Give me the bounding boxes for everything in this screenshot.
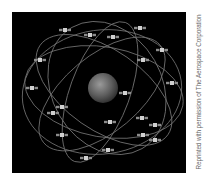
satellite-icon bbox=[137, 133, 149, 137]
satellite-icon bbox=[80, 156, 92, 160]
satellite-icon bbox=[56, 105, 68, 109]
image-credit: Reprinted with permission of The Aerospa… bbox=[195, 14, 202, 169]
satellite-icon bbox=[56, 133, 68, 137]
earth-globe bbox=[88, 73, 118, 103]
satellite-icon bbox=[136, 116, 148, 120]
satellite-icon bbox=[102, 148, 114, 152]
satellite-icon bbox=[119, 91, 131, 95]
satellite-icon bbox=[59, 28, 71, 32]
satellite-icon bbox=[84, 33, 96, 37]
satellite-icon bbox=[26, 86, 38, 90]
satellite-constellation-image bbox=[12, 12, 186, 173]
constellation-illustration bbox=[12, 12, 186, 173]
satellite-icon bbox=[107, 35, 119, 39]
satellite-icon bbox=[134, 26, 146, 30]
satellite-icon bbox=[104, 120, 116, 124]
satellite-icon bbox=[149, 123, 161, 127]
